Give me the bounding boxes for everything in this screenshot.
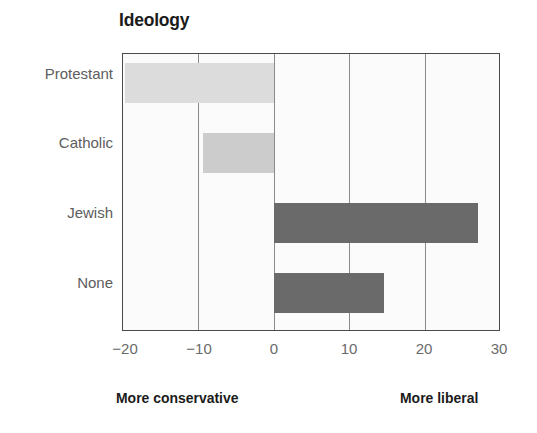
bar-jewish <box>274 203 478 243</box>
xtick-label-20: 20 <box>416 340 433 357</box>
category-label-jewish: Jewish <box>0 204 113 221</box>
category-label-protestant: Protestant <box>0 65 113 82</box>
gridline-20 <box>425 54 426 330</box>
chart-title: Ideology <box>119 9 189 31</box>
xtick-label-30: 30 <box>491 340 508 357</box>
category-label-none: None <box>0 274 113 291</box>
annotation-more-liberal: More liberal <box>400 389 478 406</box>
bar-catholic <box>203 133 274 173</box>
xtick-label-minus-20: −20 <box>112 340 137 357</box>
xtick-label-zero: 0 <box>270 340 278 357</box>
ideology-bar-chart-figure: Ideology Protestant Catholic Jewish None… <box>0 0 537 433</box>
plot-area <box>122 53 500 331</box>
category-label-catholic: Catholic <box>0 134 113 151</box>
bar-none <box>274 273 384 313</box>
xtick-label-10: 10 <box>341 340 358 357</box>
bar-protestant <box>125 63 274 103</box>
annotation-more-conservative: More conservative <box>116 389 239 406</box>
xtick-label-minus-10: −10 <box>186 340 211 357</box>
